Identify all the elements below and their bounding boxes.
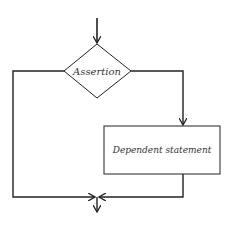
flowchart: Assertion Dependent statement (0, 0, 235, 226)
dependent-statement-box: Dependent statement (104, 126, 220, 174)
merge-line (99, 174, 183, 197)
assertion-label: Assertion (72, 66, 121, 77)
false-branch-line (13, 71, 95, 197)
dependent-statement-label: Dependent statement (112, 145, 212, 155)
true-branch-line (131, 71, 183, 125)
assertion-decision: Assertion (64, 44, 131, 98)
